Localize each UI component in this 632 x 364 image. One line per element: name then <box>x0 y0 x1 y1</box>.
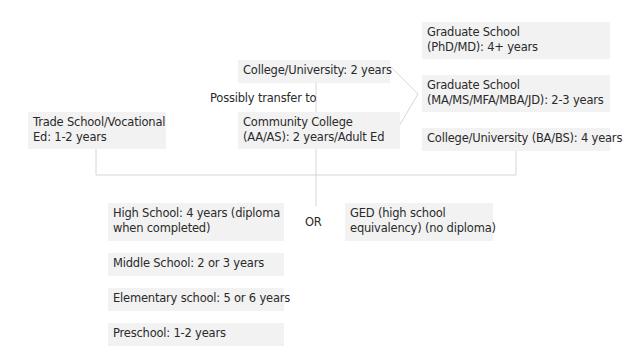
node-graduate-ma-line2: (MA/MS/MFA/MBA/JD): 2-3 years <box>427 93 605 108</box>
node-trade-school: Trade School/Vocational Ed: 1-2 years <box>28 112 166 149</box>
node-ged-line1: GED (high school <box>350 206 488 221</box>
node-trade-school-line1: Trade School/Vocational <box>33 115 161 130</box>
node-high-school-line1: High School: 4 years (diploma <box>113 206 279 221</box>
node-college-ba: College/University (BA/BS): 4 years <box>422 128 610 151</box>
node-preschool-line1: Preschool: 1-2 years <box>113 326 279 341</box>
node-ged-line2: equivalency) (no diploma) <box>350 221 488 236</box>
node-middle-school-line1: Middle School: 2 or 3 years <box>113 256 279 271</box>
node-preschool: Preschool: 1-2 years <box>108 323 284 346</box>
node-middle-school: Middle School: 2 or 3 years <box>108 253 284 276</box>
node-high-school: High School: 4 years (diploma when compl… <box>108 203 284 241</box>
node-college-ba-line1: College/University (BA/BS): 4 years <box>427 131 605 146</box>
node-community-college: Community College (AA/AS): 2 years/Adult… <box>238 112 400 149</box>
node-high-school-line2: when completed) <box>113 221 279 236</box>
node-ged: GED (high school equivalency) (no diplom… <box>345 203 493 241</box>
node-trade-school-line2: Ed: 1-2 years <box>33 130 161 145</box>
node-college-2yr-line1: College/University: 2 years <box>243 63 385 78</box>
node-elementary-school: Elementary school: 5 or 6 years <box>108 288 284 311</box>
or-label: OR <box>305 215 322 230</box>
node-elementary-school-line1: Elementary school: 5 or 6 years <box>113 291 279 306</box>
node-graduate-phd-line2: (PhD/MD): 4+ years <box>427 40 605 55</box>
transfer-label: Possibly transfer to <box>210 91 316 106</box>
node-graduate-phd-line1: Graduate School <box>427 25 605 40</box>
node-graduate-ma-line1: Graduate School <box>427 78 605 93</box>
node-community-college-line1: Community College <box>243 115 395 130</box>
node-graduate-ma: Graduate School (MA/MS/MFA/MBA/JD): 2-3 … <box>422 75 610 112</box>
node-graduate-phd: Graduate School (PhD/MD): 4+ years <box>422 22 610 59</box>
node-community-college-line2: (AA/AS): 2 years/Adult Ed <box>243 130 395 145</box>
node-college-2yr: College/University: 2 years <box>238 60 390 83</box>
